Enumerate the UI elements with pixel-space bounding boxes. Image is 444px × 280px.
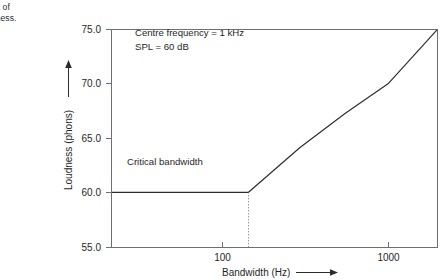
x-axis-ticks	[223, 242, 389, 248]
x-axis-tick-labels: 100 1000	[214, 252, 400, 263]
y-axis-ticks	[106, 30, 112, 248]
loudness-curve	[112, 30, 437, 193]
y-axis-title-group: Loudness (phons)	[63, 60, 74, 190]
ytick-label-55: 55.0	[82, 242, 102, 253]
plot-frame	[112, 30, 438, 248]
axis-lines	[112, 30, 438, 248]
x-axis-arrow-head	[330, 269, 338, 276]
annotation-spl: SPL = 60 dB	[135, 41, 189, 52]
y-axis-tick-labels: 75.0 70.0 65.0 60.0 55.0	[82, 24, 102, 253]
x-axis-title: Bandwidth (Hz)	[222, 267, 290, 278]
ytick-label-70: 70.0	[82, 78, 102, 89]
annotation-centre-frequency: Centre frequency = 1 kHz	[135, 27, 244, 38]
ytick-label-60: 60.0	[82, 187, 102, 198]
ytick-label-65: 65.0	[82, 133, 102, 144]
x-axis-title-group: Bandwidth (Hz)	[222, 267, 338, 278]
loudness-bandwidth-chart: 75.0 70.0 65.0 60.0 55.0 100 1000 Centre…	[0, 0, 444, 280]
xtick-label-100: 100	[214, 252, 231, 263]
figure-page: fect of udness. 75.0 70.0 65.0 60.0 55.0	[0, 0, 444, 280]
ytick-label-75: 75.0	[82, 24, 102, 35]
y-axis-title: Loudness (phons)	[63, 110, 74, 190]
y-axis-arrow-head	[65, 60, 72, 68]
annotation-critical-bandwidth: Critical bandwidth	[127, 156, 203, 167]
xtick-label-1000: 1000	[377, 252, 400, 263]
